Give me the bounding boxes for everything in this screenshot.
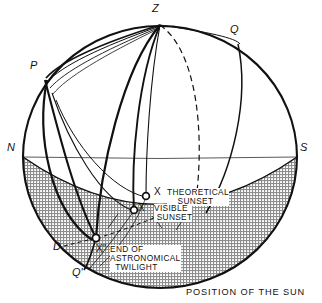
marker-theoretical-sunset[interactable] — [143, 193, 150, 200]
marker-end-astronomical-twilight[interactable] — [92, 234, 99, 241]
dashed-meridian — [160, 25, 199, 200]
figure-caption: POSITION OF THE SUN — [186, 288, 305, 298]
label-point-S: S — [300, 142, 307, 154]
label-point-Q: Q — [230, 24, 239, 36]
x-marker-label-twilight: X″ — [96, 244, 106, 255]
label-point-D: D — [53, 241, 61, 253]
horizon-arc-rear — [23, 157, 297, 159]
label-point-N: N — [7, 142, 15, 154]
annotation-end-astronomical-twilight: END OF ASTRONOMICAL TWILIGHT — [110, 245, 181, 272]
x-marker-label-theoretical: X — [154, 187, 161, 198]
below-horizon-shading — [23, 157, 297, 300]
label-point-Qprime: Q' — [72, 267, 83, 279]
label-point-P: P — [30, 60, 37, 72]
x-marker-label-visible: X' — [138, 203, 147, 214]
arc-z-to-Q — [160, 25, 240, 44]
marker-visible-sunset[interactable] — [131, 207, 138, 214]
annotation-visible-sunset: VISIBLE SUNSET — [154, 204, 192, 222]
vertical-circle-z-to-theoretical — [146, 25, 160, 197]
diagram-canvas: Z Q P N S D Q' X THEORETICAL SUNSET X' V… — [0, 0, 322, 303]
label-point-Z: Z — [152, 3, 159, 15]
